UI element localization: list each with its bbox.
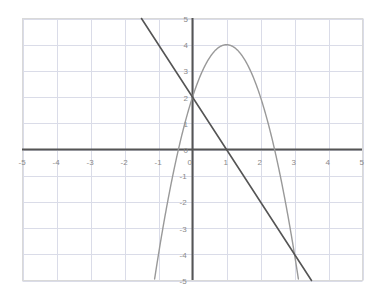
x-tick-label: 3 xyxy=(292,158,297,167)
x-tick-label: 5 xyxy=(360,158,365,167)
y-tick-label: -5 xyxy=(180,277,188,286)
y-tick-label: -3 xyxy=(180,225,188,234)
coordinate-plane: -5-4-3-2-1012345 543210-1-2-3-4-5 xyxy=(0,0,384,290)
x-tick-label: 0 xyxy=(188,158,193,167)
graph-figure: -5-4-3-2-1012345 543210-1-2-3-4-5 xyxy=(0,0,384,290)
y-tick-label: -2 xyxy=(180,198,188,207)
y-tick-label: -4 xyxy=(180,251,188,260)
y-tick-label: 4 xyxy=(184,41,189,50)
x-tick-label: 4 xyxy=(326,158,331,167)
x-tick-label: -4 xyxy=(53,158,61,167)
x-tick-label: -2 xyxy=(121,158,129,167)
y-tick-label: -1 xyxy=(180,172,188,181)
y-tick-label: 5 xyxy=(184,15,189,24)
y-tick-label: 3 xyxy=(184,67,189,76)
y-tick-label: 0 xyxy=(184,146,189,155)
x-tick-label: -1 xyxy=(155,158,163,167)
x-tick-label: 1 xyxy=(224,158,229,167)
x-tick-label: -5 xyxy=(19,158,27,167)
x-tick-label: -3 xyxy=(87,158,95,167)
x-tick-label: 2 xyxy=(258,158,263,167)
y-tick-label: 2 xyxy=(184,94,189,103)
